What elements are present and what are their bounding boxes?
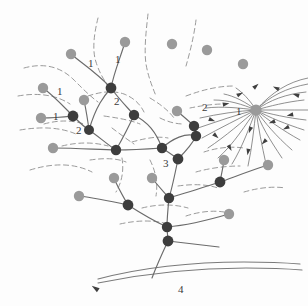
channel-link-25 bbox=[167, 214, 229, 227]
junction-right-low[interactable] bbox=[215, 177, 226, 188]
source-top-d[interactable] bbox=[202, 45, 212, 55]
channel-link-10 bbox=[53, 148, 116, 150]
source-left-a[interactable] bbox=[38, 83, 48, 93]
divide-line-23 bbox=[62, 143, 108, 146]
channel-link-9 bbox=[116, 148, 162, 150]
divide-line-9 bbox=[132, 137, 168, 142]
fan-arrow-13 bbox=[247, 126, 253, 134]
order-label-0: 1 bbox=[88, 58, 94, 69]
arrow-glyph-icon bbox=[212, 132, 220, 140]
channel-link-1 bbox=[111, 42, 125, 88]
divide-line-5 bbox=[145, 14, 156, 96]
source-low-a[interactable] bbox=[74, 191, 84, 201]
channel-link-21 bbox=[128, 205, 167, 227]
source-top-b[interactable] bbox=[120, 37, 130, 47]
network-diagram-canvas bbox=[0, 0, 308, 306]
junction-left-upper[interactable] bbox=[68, 111, 79, 122]
divide-line-21 bbox=[186, 211, 224, 216]
source-mid-c[interactable] bbox=[147, 173, 157, 183]
source-nodes bbox=[36, 37, 273, 219]
junction-left-lower[interactable] bbox=[84, 125, 94, 135]
fan-curve-13 bbox=[218, 110, 256, 158]
source-top-c[interactable] bbox=[167, 39, 177, 49]
fan-arrow-7 bbox=[212, 132, 220, 140]
junction-right-upper[interactable] bbox=[189, 121, 199, 131]
divide-line-4 bbox=[94, 18, 108, 86]
trunk-flow-arrow bbox=[90, 284, 99, 293]
order-label-9: 4 bbox=[178, 284, 184, 295]
order-label-4: 2 bbox=[76, 125, 82, 136]
source-left-d[interactable] bbox=[48, 143, 58, 153]
fan-arrow-11 bbox=[252, 82, 260, 90]
junction-top-center[interactable] bbox=[106, 83, 117, 94]
source-right-a[interactable] bbox=[219, 155, 229, 165]
junction-lower-mid[interactable] bbox=[164, 193, 174, 203]
source-mid-b[interactable] bbox=[109, 173, 119, 183]
source-right-c[interactable] bbox=[224, 209, 234, 219]
channel-link-29 bbox=[134, 115, 162, 148]
fan-arrow-10 bbox=[236, 91, 244, 98]
fan-curve-12 bbox=[232, 110, 256, 164]
divide-line-13 bbox=[90, 159, 126, 162]
source-fan-hub[interactable] bbox=[250, 104, 261, 115]
order-label-8: 3 bbox=[163, 158, 169, 169]
divide-line-6 bbox=[186, 20, 196, 66]
source-left-c[interactable] bbox=[79, 95, 89, 105]
source-left-b[interactable] bbox=[36, 113, 46, 123]
distributary-fan-lines bbox=[198, 78, 308, 166]
junction-mid-left[interactable] bbox=[111, 145, 121, 155]
arrow-glyph-icon bbox=[247, 126, 253, 134]
channel-link-24 bbox=[169, 182, 220, 198]
fan-curve-18 bbox=[206, 107, 256, 110]
order-label-3: 1 bbox=[53, 111, 59, 122]
order-label-2: 1 bbox=[57, 86, 63, 97]
channel-link-20 bbox=[79, 196, 128, 205]
source-top-a[interactable] bbox=[66, 49, 76, 59]
stream-order-figure: 1111222134 bbox=[0, 0, 308, 306]
trunk-line-1 bbox=[98, 268, 302, 283]
divide-line-2 bbox=[20, 128, 76, 134]
channel-link-26 bbox=[168, 241, 219, 247]
main-trunk-channel bbox=[90, 262, 302, 292]
divide-line-3 bbox=[30, 165, 92, 172]
arrow-glyph-icon bbox=[222, 101, 229, 106]
fan-arrow-9 bbox=[222, 101, 229, 106]
divide-line-17 bbox=[196, 166, 240, 172]
divide-line-16 bbox=[204, 147, 244, 152]
order-label-6: 2 bbox=[202, 102, 208, 113]
divide-line-25 bbox=[150, 98, 174, 118]
channel-link-8 bbox=[116, 115, 134, 150]
junction-order3[interactable] bbox=[173, 154, 184, 165]
arrow-glyph-icon bbox=[252, 82, 260, 90]
divide-line-26 bbox=[112, 128, 134, 144]
junction-center[interactable] bbox=[157, 143, 167, 153]
fan-curve-11 bbox=[248, 110, 256, 166]
junction-trunk-head[interactable] bbox=[163, 236, 174, 247]
junction-lower-left[interactable] bbox=[123, 200, 134, 211]
arrow-glyph-icon bbox=[90, 284, 99, 293]
junction-right-mid[interactable] bbox=[191, 131, 201, 141]
arrow-glyph-icon bbox=[236, 91, 244, 98]
order-label-1: 1 bbox=[115, 54, 121, 65]
divide-line-19 bbox=[142, 205, 188, 208]
fan-curve-5 bbox=[256, 110, 306, 120]
channel-link-15 bbox=[169, 159, 178, 198]
junction-mid-upper[interactable] bbox=[129, 110, 139, 120]
divide-line-22 bbox=[244, 187, 286, 192]
source-right-b[interactable] bbox=[263, 160, 273, 170]
fan-curve-10 bbox=[256, 110, 266, 164]
source-mid-a[interactable] bbox=[172, 106, 182, 116]
order-label-5: 2 bbox=[114, 96, 120, 107]
divide-line-10 bbox=[160, 118, 184, 124]
source-top-e[interactable] bbox=[238, 59, 248, 69]
order-label-7: 1 bbox=[236, 106, 242, 117]
channel-link-23 bbox=[220, 165, 268, 182]
junction-lower-stem[interactable] bbox=[162, 222, 172, 232]
trunk-line-0 bbox=[98, 262, 300, 279]
